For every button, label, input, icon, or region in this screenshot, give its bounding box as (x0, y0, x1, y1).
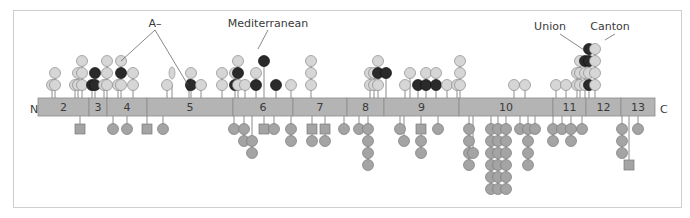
annotation-leader-line (258, 30, 268, 49)
variant-marker (617, 136, 628, 147)
variant-marker (229, 124, 240, 135)
variant-marker (501, 136, 512, 147)
variant-marker-ellipse (169, 67, 175, 79)
variant-marker (433, 124, 444, 135)
variant-marker (566, 136, 577, 147)
annotation-leader-line (121, 30, 155, 61)
variant-marker (77, 68, 88, 79)
variant-marker (251, 68, 262, 79)
variants-below (75, 124, 644, 195)
variant-square-marker (142, 124, 152, 134)
exon-bar: 2345678910111213 (38, 98, 655, 116)
variant-square-marker (320, 124, 330, 134)
variant-marker (373, 56, 384, 67)
severe-variant-marker (233, 68, 244, 79)
variant-marker (590, 68, 601, 79)
variant-square-marker (259, 124, 269, 134)
variant-marker (617, 148, 628, 159)
protein-variant-diagram: 2345678910111213 A–MediterraneanUnionCan… (0, 0, 690, 218)
severe-variant-marker (381, 68, 392, 79)
variant-marker (399, 136, 410, 147)
variant-marker (501, 160, 512, 171)
annotation-leader-line (560, 34, 584, 50)
variant-marker (421, 68, 432, 79)
variant-marker (523, 160, 534, 171)
variant-marker (102, 56, 113, 67)
severe-variant-marker (90, 68, 101, 79)
variant-marker (455, 68, 466, 79)
variant-marker (102, 80, 113, 91)
annotation-label: A– (148, 17, 161, 30)
variant-marker (363, 160, 374, 171)
exon-label: 7 (317, 101, 324, 114)
exon-label: 10 (499, 101, 513, 114)
variant-marker (269, 124, 280, 135)
variant-marker (247, 148, 258, 159)
variant-marker (339, 124, 350, 135)
annotation-label: Union (534, 20, 566, 33)
variant-marker (501, 124, 512, 135)
variant-marker (501, 172, 512, 183)
variant-square-marker (307, 124, 317, 134)
variant-marker (158, 124, 169, 135)
severe-variant-marker (271, 80, 282, 91)
variant-marker (196, 80, 207, 91)
variant-marker (286, 80, 297, 91)
exon-label: 11 (563, 101, 577, 114)
variants-above (47, 44, 601, 92)
variant-marker (108, 124, 119, 135)
variant-marker (50, 68, 61, 79)
exon-label: 9 (418, 101, 425, 114)
variant-marker (77, 80, 88, 91)
variant-marker (128, 80, 139, 91)
variant-marker (400, 80, 411, 91)
variant-marker (116, 80, 127, 91)
variant-marker (307, 136, 318, 147)
variant-marker (128, 68, 139, 79)
variant-marker (50, 80, 61, 91)
variant-marker (239, 124, 250, 135)
variant-square-marker (75, 124, 85, 134)
severe-variant-marker (251, 80, 262, 91)
variant-marker (590, 80, 601, 91)
variant-marker (590, 56, 601, 67)
variant-marker (186, 68, 197, 79)
variant-marker (464, 136, 475, 147)
variant-marker (363, 148, 374, 159)
variant-marker (501, 184, 512, 195)
variant-marker (566, 124, 577, 135)
variant-marker (561, 80, 572, 91)
variant-marker (286, 136, 297, 147)
variant-marker (247, 136, 258, 147)
variant-marker (320, 136, 331, 147)
exon-label: 6 (260, 101, 267, 114)
variant-marker (464, 160, 475, 171)
severe-variant-marker (186, 80, 197, 91)
exon-label: 13 (631, 101, 645, 114)
annotation-label: Canton (590, 20, 629, 33)
variant-square-marker (624, 160, 634, 170)
variant-marker (217, 80, 228, 91)
exon-label: 2 (60, 101, 67, 114)
exon-label: 3 (95, 101, 102, 114)
variant-marker (363, 124, 374, 135)
variant-marker (442, 80, 453, 91)
variant-marker (617, 124, 628, 135)
variant-marker (509, 80, 520, 91)
variant-marker (77, 56, 88, 67)
variant-marker (102, 68, 113, 79)
severe-variant-marker (116, 68, 127, 79)
variant-marker (162, 80, 173, 91)
variant-marker (633, 124, 644, 135)
variant-marker (455, 80, 466, 91)
variant-marker (548, 136, 559, 147)
annotation-label: Mediterranean (228, 17, 308, 30)
variant-marker (431, 68, 442, 79)
variant-marker (530, 124, 541, 135)
variant-marker (306, 80, 317, 91)
variant-marker (240, 80, 251, 91)
severe-variant-marker (431, 80, 442, 91)
variant-marker (520, 80, 531, 91)
c-terminus-label: C (660, 103, 668, 116)
variant-marker (233, 56, 244, 67)
